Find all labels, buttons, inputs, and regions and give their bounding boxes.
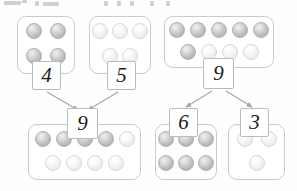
counter-dot[interactable] [211, 22, 227, 38]
counter-row [26, 23, 66, 39]
counter-dot[interactable] [253, 22, 269, 38]
counter-dot[interactable] [243, 44, 259, 60]
bond-arrow [186, 91, 212, 107]
number-label-box[interactable]: 9 [203, 58, 234, 89]
counter-row [158, 155, 214, 171]
header-glyph-fragment [117, 1, 121, 6]
header-glyph-fragment [35, 1, 39, 6]
counter-dot[interactable] [112, 23, 128, 39]
counter-dot[interactable] [178, 155, 194, 171]
number-label-box[interactable]: 9 [67, 108, 98, 139]
counter-dot[interactable] [108, 155, 124, 171]
counter-row [45, 155, 124, 171]
counter-dot[interactable] [119, 131, 135, 147]
header-glyph-fragment [4, 1, 21, 5]
counter-dot[interactable] [132, 23, 148, 39]
number-label-box[interactable]: 5 [107, 61, 136, 90]
header-glyph-fragment [130, 1, 134, 6]
counter-dot[interactable] [45, 155, 61, 171]
number-label-box[interactable]: 6 [169, 108, 198, 137]
counter-dot[interactable] [232, 22, 248, 38]
counter-row [92, 23, 148, 39]
counter-dot[interactable] [198, 155, 214, 171]
counter-dot[interactable] [98, 131, 114, 147]
header-glyph-fragment [43, 2, 59, 6]
bond-arrow [226, 91, 252, 107]
counter-row [169, 22, 269, 38]
counter-dot[interactable] [180, 44, 196, 60]
counter-dot[interactable] [92, 23, 108, 39]
counter-dot[interactable] [190, 22, 206, 38]
header-glyph-fragment [150, 1, 154, 6]
counter-row [249, 155, 265, 171]
worksheet-canvas: 459963 [0, 0, 297, 191]
header-glyph-fragment [22, 0, 27, 3]
number-label-box[interactable]: 4 [32, 61, 61, 90]
cut-off-header-strip [0, 0, 297, 11]
counter-dot[interactable] [158, 155, 174, 171]
counter-dot[interactable] [87, 155, 103, 171]
counter-dot[interactable] [26, 23, 42, 39]
counter-dot[interactable] [35, 131, 51, 147]
counter-dot[interactable] [169, 22, 185, 38]
counter-dot[interactable] [198, 131, 214, 147]
counter-dot[interactable] [249, 155, 265, 171]
counter-dot[interactable] [66, 155, 82, 171]
header-glyph-fragment [104, 1, 108, 6]
header-glyph-fragment [166, 1, 170, 6]
counter-dot[interactable] [50, 23, 66, 39]
number-label-box[interactable]: 3 [240, 108, 269, 137]
